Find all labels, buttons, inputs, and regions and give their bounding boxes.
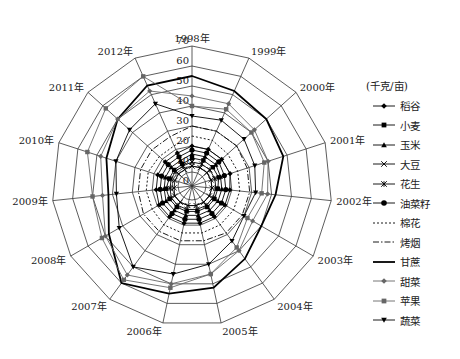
legend-swatch-icon [372, 257, 396, 267]
category-label: 2000年 [300, 81, 335, 93]
category-label: 2006年 [126, 325, 161, 337]
legend-swatch-icon [372, 296, 396, 306]
grid [53, 46, 331, 323]
category-label: 2001年 [330, 134, 365, 146]
radial-tick-label: 30 [176, 115, 189, 126]
legend-item: 稻谷 [372, 96, 430, 116]
legend-item: 烤烟 [372, 233, 430, 253]
legend-swatch-icon [372, 140, 396, 150]
legend-label: 棉花 [400, 215, 420, 230]
legend: (千克/亩) 稻谷小麦玉米大豆花生油菜籽棉花烤烟甘蔗甜菜苹果蔬菜 [372, 78, 430, 330]
legend-label: 油菜籽 [400, 196, 430, 211]
category-label: 1999年 [251, 45, 286, 57]
legend-label: 甘蔗 [400, 254, 420, 269]
category-label: 2003年 [318, 254, 353, 266]
category-label: 2007年 [71, 300, 106, 312]
legend-label: 甜菜 [400, 274, 420, 289]
legend-label: 稻谷 [400, 98, 420, 113]
legend-item: 甜菜 [372, 272, 430, 292]
legend-label: 烤烟 [400, 235, 420, 250]
legend-swatch-icon [372, 276, 396, 286]
legend-swatch-icon [372, 179, 396, 189]
category-label: 2008年 [31, 254, 66, 266]
legend-item: 小麦 [372, 116, 430, 136]
category-label: 2009年 [12, 195, 47, 207]
category-label: 1998年 [174, 32, 209, 44]
legend-item: 苹果 [372, 291, 430, 311]
legend-label: 大豆 [400, 157, 420, 172]
radial-tick-label: 0 [183, 175, 189, 186]
legend-item: 蔬菜 [372, 311, 430, 331]
category-label: 2005年 [222, 325, 257, 337]
legend-item: 花生 [372, 174, 430, 194]
category-label: 2004年 [277, 300, 312, 312]
legend-unit-label: (千克/亩) [366, 78, 430, 93]
category-label: 2002年 [336, 195, 371, 207]
legend-item: 甘蔗 [372, 252, 430, 272]
legend-item: 棉花 [372, 213, 430, 233]
legend-label: 苹果 [400, 293, 420, 308]
legend-item: 大豆 [372, 155, 430, 175]
legend-swatch-icon [372, 101, 396, 111]
legend-swatch-icon [372, 218, 396, 228]
category-label: 2011年 [49, 81, 84, 93]
legend-item: 玉米 [372, 135, 430, 155]
legend-swatch-icon [372, 159, 396, 169]
legend-swatch-icon [372, 237, 396, 247]
legend-item: 油菜籽 [372, 194, 430, 214]
radial-tick-label: 20 [176, 135, 189, 146]
legend-label: 玉米 [400, 137, 420, 152]
category-label: 2012年 [98, 45, 133, 57]
category-label: 2010年 [19, 134, 54, 146]
series-10 [85, 74, 266, 290]
legend-swatch-icon [372, 198, 396, 208]
legend-swatch-icon [372, 315, 396, 325]
legend-label: 蔬菜 [400, 313, 420, 328]
legend-label: 花生 [400, 176, 420, 191]
legend-swatch-icon [372, 120, 396, 130]
legend-label: 小麦 [400, 118, 420, 133]
radial-tick-label: 60 [176, 55, 189, 66]
